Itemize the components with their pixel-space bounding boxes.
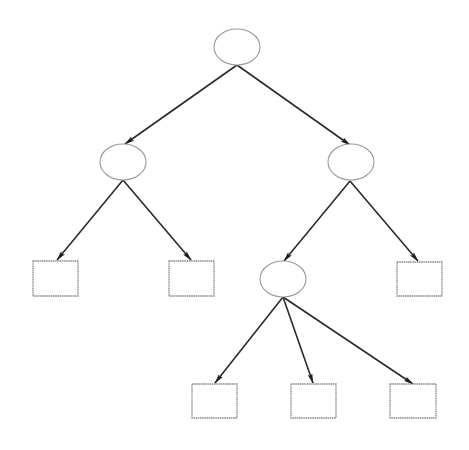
node-ellipse-root (214, 29, 260, 65)
edges (57, 65, 418, 384)
nodes (33, 29, 442, 418)
edge-arrow-lower-internal-to-leaf-4 (215, 297, 283, 383)
node-box-leaf-4 (192, 384, 237, 418)
edge-arrow-lower-internal-to-leaf-5 (283, 297, 313, 383)
edge-arrow-right-internal-to-lower-internal (284, 181, 350, 261)
edge-arrow-left-internal-to-leaf-2 (123, 180, 191, 260)
node-ellipse-left-internal (100, 144, 146, 180)
node-box-leaf-6 (390, 384, 436, 418)
node-ellipse-right-internal (328, 144, 374, 180)
edge-arrow-lower-internal-to-leaf-6 (283, 297, 413, 384)
node-box-leaf-1 (33, 261, 78, 296)
edge-arrow-root-to-right-internal (237, 65, 350, 145)
node-box-leaf-3 (397, 262, 442, 296)
node-box-leaf-2 (169, 261, 214, 296)
tree-diagram (0, 0, 469, 450)
node-ellipse-lower-internal (260, 261, 306, 297)
edge-arrow-root-to-left-internal (125, 65, 237, 144)
edge-arrow-right-internal-to-leaf-3 (350, 181, 418, 261)
edge-arrow-left-internal-to-leaf-1 (57, 180, 123, 260)
node-box-leaf-5 (291, 384, 336, 418)
